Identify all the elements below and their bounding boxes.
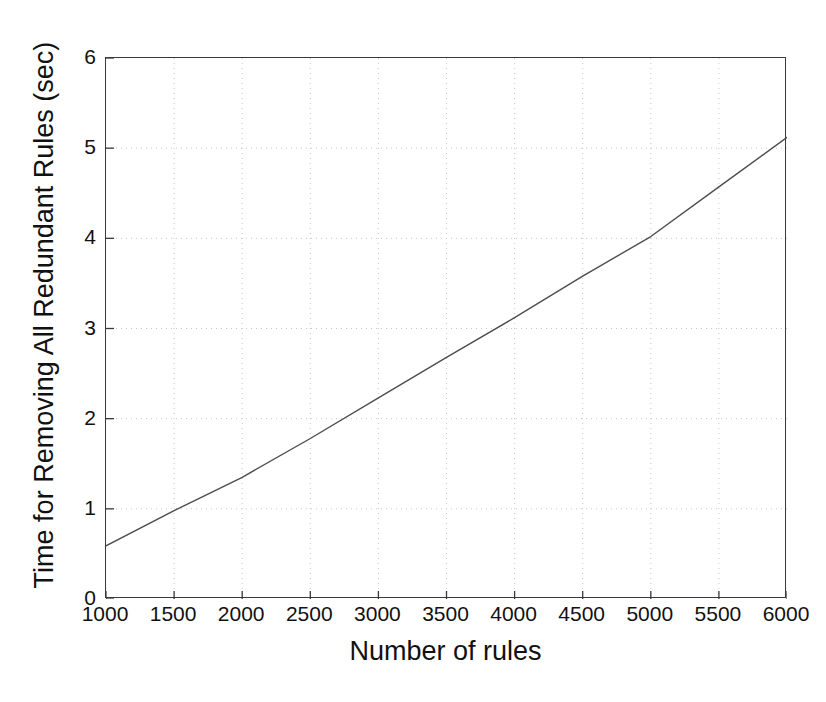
y-axis-label: Time for Removing All Redundant Rules (s… <box>22 15 66 615</box>
x-tick-label: 4500 <box>558 602 605 626</box>
plot-area <box>105 57 786 598</box>
y-tick-label: 3 <box>84 316 96 340</box>
y-tick-label: 5 <box>84 135 96 159</box>
x-tickmarks <box>106 591 787 599</box>
x-tick-label: 2000 <box>218 602 265 626</box>
y-gridlines <box>106 148 787 509</box>
plot-canvas <box>106 58 787 599</box>
x-tick-label: 1500 <box>150 602 197 626</box>
y-tick-label: 1 <box>84 496 96 520</box>
chart-figure: Time for Removing All Redundant Rules (s… <box>0 0 826 702</box>
x-tick-label: 5500 <box>695 602 742 626</box>
y-tickmarks <box>106 58 114 599</box>
x-tick-label: 5000 <box>626 602 673 626</box>
x-tick-label: 4000 <box>490 602 537 626</box>
y-tick-label: 6 <box>84 45 96 69</box>
x-tick-label: 2500 <box>286 602 333 626</box>
y-tick-label: 0 <box>84 586 96 610</box>
y-tick-label: 4 <box>84 225 96 249</box>
x-tick-label: 3000 <box>354 602 401 626</box>
x-tick-label: 3500 <box>422 602 469 626</box>
x-axis-label: Number of rules <box>105 636 786 667</box>
x-tick-label: 6000 <box>763 602 810 626</box>
y-tick-label: 2 <box>84 406 96 430</box>
